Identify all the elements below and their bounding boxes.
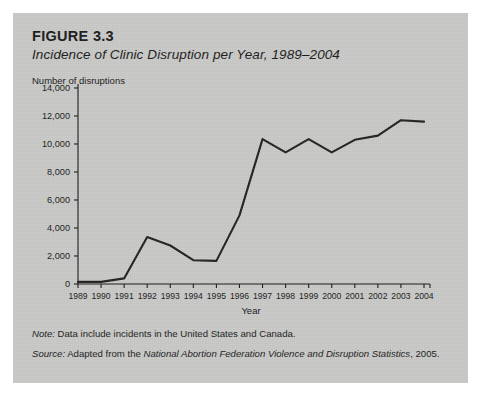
figure-source: Source: Adapted from the National Aborti… [32,348,439,359]
y-axis-tick-label: 12,000 [42,111,70,121]
y-axis-tick-label: 0 [65,279,70,289]
y-axis-tick-label: 6,000 [47,195,70,205]
x-axis-tick-label: 2002 [368,291,387,301]
x-axis-tick-label: 1994 [184,291,203,301]
figure-panel: FIGURE 3.3 Incidence of Clinic Disruptio… [13,13,468,383]
note-text: Data include incidents in the United Sta… [55,328,296,339]
x-axis-tick-label: 1992 [138,291,157,301]
source-text-post: , 2005. [410,348,439,359]
x-axis-tick-label: 1998 [276,291,295,301]
figure-note: Note: Data include incidents in the Unit… [32,328,295,339]
note-label: Note: [32,328,55,339]
x-axis-tick-label: 1997 [253,291,272,301]
y-axis-tick-label: 8,000 [47,167,70,177]
x-axis-tick-label: 2001 [345,291,364,301]
x-axis-tick-label: 2003 [391,291,410,301]
data-series-line [78,120,424,282]
x-axis-tick-label: 2000 [322,291,341,301]
y-axis-tick-label: 4,000 [47,223,70,233]
x-axis-tick-label: 1999 [299,291,318,301]
x-axis-tick-label: 1991 [115,291,134,301]
y-axis-tick-label: 10,000 [42,139,70,149]
x-axis-tick-label: 1995 [207,291,226,301]
x-axis-tick-label: 1996 [230,291,249,301]
y-axis-tick-label: 2,000 [47,251,70,261]
x-axis-tick-label: 2004 [414,291,433,301]
x-axis-title: Year [241,305,260,316]
x-axis-tick-label: 1989 [68,291,87,301]
source-label: Source: [32,348,65,359]
x-axis-tick-label: 1990 [92,291,111,301]
source-text-title: National Abortion Federation Violence an… [143,348,410,359]
x-axis-tick-label: 1993 [161,291,180,301]
y-axis-tick-label: 14,000 [42,83,70,93]
source-text-pre: Adapted from the [65,348,143,359]
